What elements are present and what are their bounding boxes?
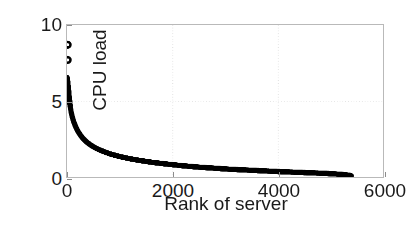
y-axis-label: CPU load bbox=[89, 0, 111, 155]
y-tick-mark bbox=[67, 102, 72, 103]
plot-area: 0510 0200040006000 CPU load Rank of serv… bbox=[66, 24, 384, 178]
x-tick-mark bbox=[385, 172, 386, 177]
x-axis-label: Rank of server bbox=[67, 193, 385, 215]
y-tick-label: 5 bbox=[51, 91, 62, 113]
x-tick-mark bbox=[279, 172, 280, 177]
chart-canvas bbox=[67, 25, 383, 177]
x-tick-mark bbox=[67, 172, 68, 177]
y-tick-label: 10 bbox=[41, 14, 62, 36]
cpu-load-rank-chart: 0510 0200040006000 CPU load Rank of serv… bbox=[0, 0, 410, 243]
y-tick-mark bbox=[67, 25, 72, 26]
y-tick-label: 0 bbox=[51, 168, 62, 190]
x-tick-mark bbox=[173, 172, 174, 177]
